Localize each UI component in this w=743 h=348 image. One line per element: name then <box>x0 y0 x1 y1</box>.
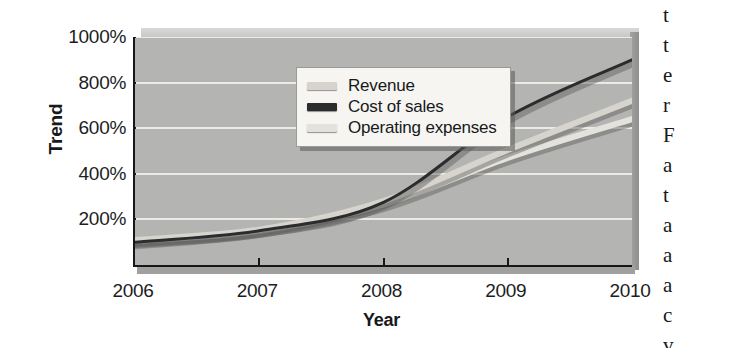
y-tick-label: 400% <box>79 163 126 185</box>
x-tick-label: 2007 <box>237 280 278 302</box>
body-text-line: a <box>663 270 743 300</box>
body-text-line: t <box>663 0 743 30</box>
body-text-line: e <box>663 60 743 90</box>
y-tick-label: 1000% <box>68 26 126 48</box>
x-tick-label: 2009 <box>485 280 526 302</box>
body-text-line: F <box>663 120 743 150</box>
trend-line-chart: Trend 200%400%600%800%1000% RevenueCost … <box>0 0 660 348</box>
legend-item: Operating expenses <box>307 117 497 138</box>
body-text-line: r <box>663 90 743 120</box>
legend-swatch-icon <box>307 82 337 90</box>
y-axis-tick-labels: 200%400%600%800%1000% <box>0 0 132 300</box>
legend-label: Cost of sales <box>348 97 444 117</box>
legend-item: Cost of sales <box>307 96 497 117</box>
plot-top-bevel <box>141 28 639 37</box>
x-tick-label: 2010 <box>609 280 650 302</box>
legend-item: Revenue <box>307 75 497 96</box>
x-tick-label: 2006 <box>112 280 153 302</box>
body-text-line: t <box>663 180 743 210</box>
body-text-line: a <box>663 150 743 180</box>
chart-page: Trend 200%400%600%800%1000% RevenueCost … <box>0 0 743 348</box>
x-tick-mark <box>383 258 385 267</box>
x-axis-tick-labels: 20062007200820092010 <box>133 280 639 310</box>
body-text-line: v <box>663 330 743 348</box>
x-tick-label: 2008 <box>361 280 402 302</box>
x-tick-mark <box>507 258 509 267</box>
x-tick-mark <box>258 258 260 267</box>
y-tick-label: 600% <box>79 117 126 139</box>
y-tick-label: 200% <box>79 208 126 230</box>
legend: RevenueCost of salesOperating expenses <box>296 67 511 147</box>
plot-3d-frame: RevenueCost of salesOperating expenses <box>133 28 639 274</box>
body-text-line: a <box>663 210 743 240</box>
x-axis-title: Year <box>133 310 630 331</box>
legend-label: Operating expenses <box>348 118 497 138</box>
y-tick-label: 800% <box>79 72 126 94</box>
body-text-line: a <box>663 240 743 270</box>
body-text-line: t <box>663 30 743 60</box>
body-text-line: c <box>663 300 743 330</box>
legend-label: Revenue <box>348 76 415 96</box>
adjacent-body-text-column: tterFataaacv <box>663 0 743 348</box>
legend-swatch-icon <box>307 124 337 132</box>
legend-swatch-icon <box>307 103 337 111</box>
